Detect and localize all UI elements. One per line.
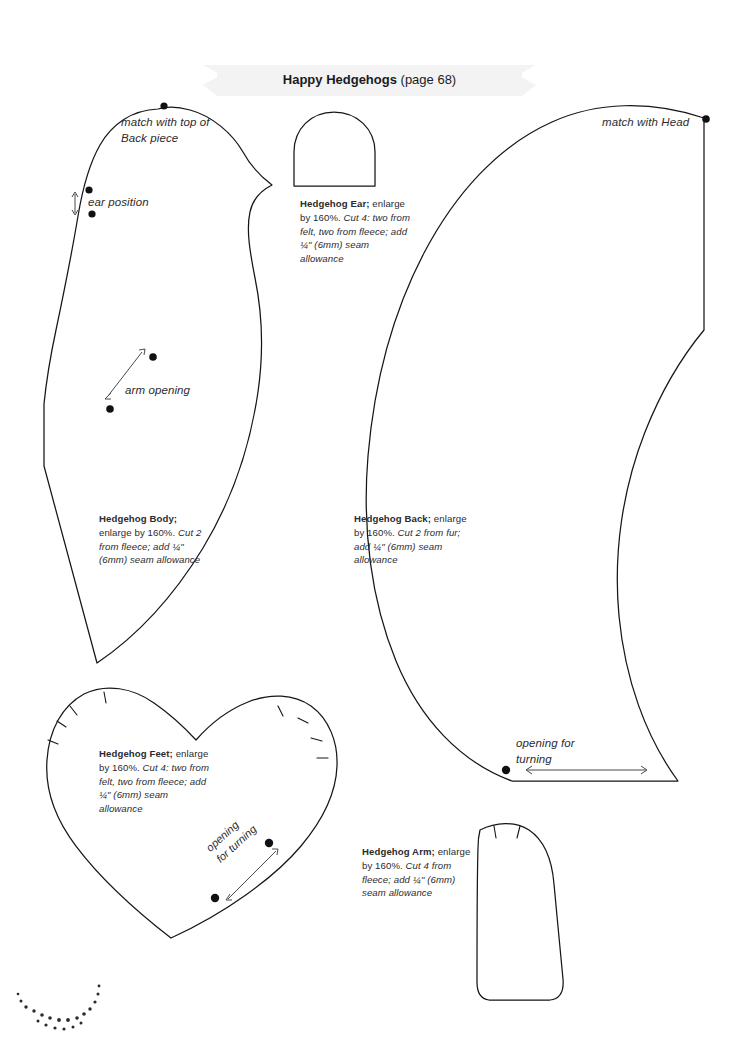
back-opening-label: opening for turning <box>516 735 606 768</box>
back-opening-dot <box>502 766 510 774</box>
hedgehog-back-caption: Hedgehog Back; enlarge by 160%. Cut 2 fr… <box>354 512 472 567</box>
arm-opening-label: arm opening <box>125 382 235 398</box>
arm-opening-dot-top <box>149 353 157 361</box>
page-title-main: Happy Hedgehogs <box>283 72 397 87</box>
ear-position-arrow <box>72 192 78 215</box>
page-title-reference: (page 68) <box>401 72 457 87</box>
hedgehog-arm-outline <box>477 824 563 1000</box>
hedgehog-body-caption-rest: enlarge by 160%. <box>99 527 178 538</box>
folio-dot-ring <box>16 963 128 1048</box>
hedgehog-back-outline <box>366 106 704 781</box>
hedgehog-arm-caption-title: Hedgehog Arm; <box>362 846 435 857</box>
page-banner: Happy Hedgehogs (page 68) <box>203 63 536 100</box>
hedgehog-body-caption: Hedgehog Body; enlarge by 160%. Cut 2 fr… <box>99 512 211 567</box>
body-match-label: match with top of Back piece <box>121 114 221 147</box>
folio-decoration: 120 <box>16 963 128 1048</box>
back-match-label: match with Head <box>602 114 697 130</box>
hedgehog-body-caption-title: Hedgehog Body; <box>99 513 177 524</box>
ear-position-label: ear position <box>88 194 188 210</box>
ear-position-dot-lower <box>88 210 95 217</box>
body-top-match-dot <box>160 102 167 109</box>
hedgehog-back-caption-title: Hedgehog Back; <box>354 513 431 524</box>
hedgehog-feet-caption: Hedgehog Feet; enlarge by 160%. Cut 4: t… <box>99 747 211 816</box>
ear-position-dot-upper <box>85 186 92 193</box>
page-title: Happy Hedgehogs (page 68) <box>203 72 536 87</box>
pattern-page: Happy Hedgehogs (page 68) match with top… <box>0 0 739 1048</box>
feet-opening-dot-upper <box>265 839 273 847</box>
hedgehog-ear-caption: Hedgehog Ear; enlarge by 160%. Cut 4: tw… <box>300 197 412 266</box>
hedgehog-feet-caption-title: Hedgehog Feet; <box>99 748 173 759</box>
hedgehog-arm-caption: Hedgehog Arm; enlarge by 160%. Cut 4 fro… <box>362 845 474 900</box>
arm-opening-dot-bottom <box>106 405 114 413</box>
hedgehog-ear-outline <box>294 112 375 186</box>
feet-opening-dot-lower <box>211 894 219 902</box>
back-match-dot <box>702 115 710 123</box>
hedgehog-ear-caption-title: Hedgehog Ear; <box>300 198 370 209</box>
